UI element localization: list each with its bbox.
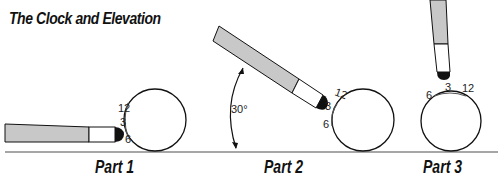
part-1-illustration: 12 3 6 (5, 89, 186, 151)
part-1-cue-ferrule (89, 127, 115, 142)
part-1-label-3: 3 (120, 116, 126, 128)
part-1-caption: Part 1 (95, 157, 134, 178)
part-1-label-12: 12 (118, 102, 130, 114)
part-1-label-6: 6 (125, 133, 131, 145)
part-3-label-6: 6 (426, 89, 432, 101)
part-2-arc-arrow-top-icon (238, 68, 244, 74)
part-2-label-3: 3 (325, 100, 331, 112)
part-2-caption: Part 2 (264, 157, 303, 178)
part-2-label-6: 6 (323, 118, 329, 130)
part-3-cue-tip (437, 72, 450, 80)
part-3-cue-shaft (430, 0, 448, 44)
part-1-cue-ball (124, 89, 186, 151)
part-2-illustration: 30° 12 3 6 (213, 26, 394, 151)
part-2-cue-shaft (213, 26, 299, 93)
clock-elevation-diagram: 12 3 6 30° 12 3 6 6 3 12 (0, 0, 498, 182)
part-3-illustration: 6 3 12 (421, 0, 481, 151)
part-2-arc-arrow-bottom-icon (232, 142, 238, 149)
part-3-caption: Part 3 (423, 157, 462, 178)
part-1-cue-shaft (5, 124, 89, 142)
part-3-label-3: 3 (445, 81, 451, 93)
part-3-cue-ferrule (434, 44, 450, 72)
part-3-label-12: 12 (462, 82, 474, 94)
part-1-cue-tip (115, 127, 124, 142)
part-2-angle-label: 30° (231, 103, 248, 115)
